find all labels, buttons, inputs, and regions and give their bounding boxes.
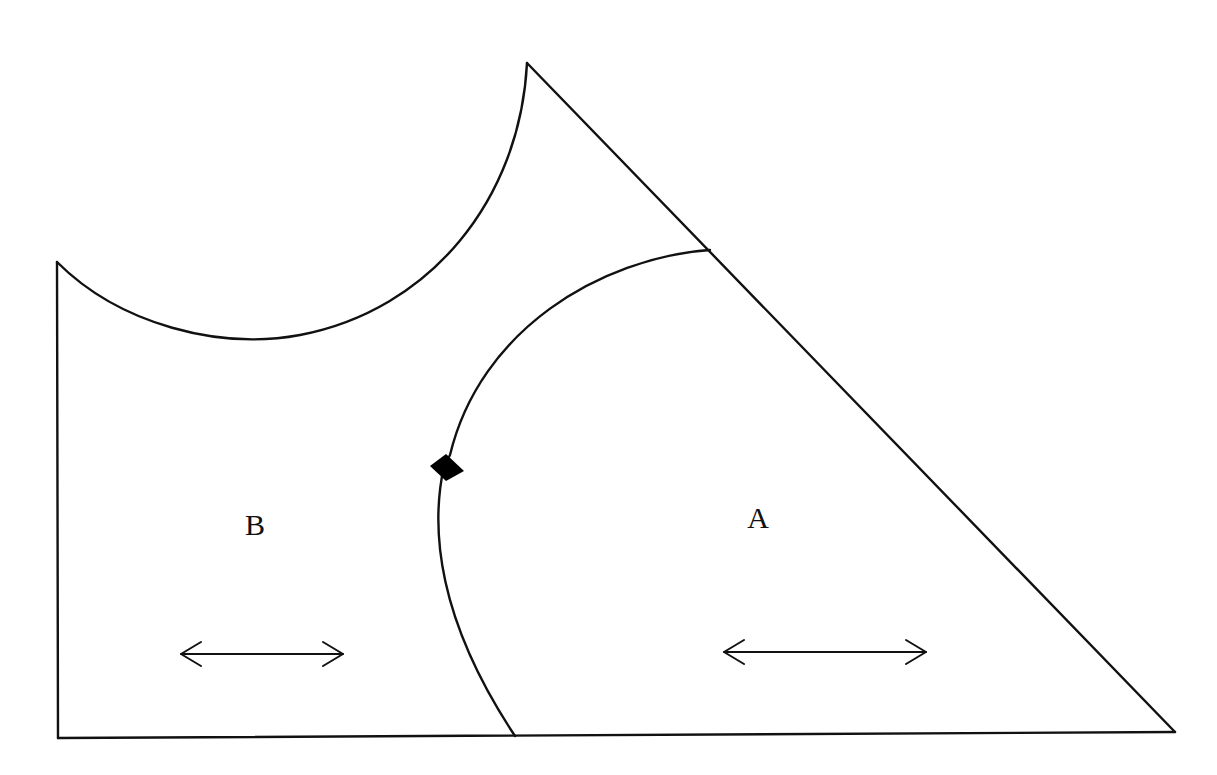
diamond-marker-icon xyxy=(430,454,464,481)
region-a-double-arrow-icon xyxy=(724,640,926,664)
bottom-edge xyxy=(58,732,1175,738)
diagonal-edge xyxy=(527,63,1175,732)
diagram-canvas xyxy=(0,0,1217,775)
region-b-label: B xyxy=(245,510,265,540)
inner-boundary-arc xyxy=(438,250,710,736)
left-edge xyxy=(57,262,58,738)
region-a-label: A xyxy=(747,503,769,533)
top-concave-arc xyxy=(57,63,527,339)
region-b-double-arrow-icon xyxy=(181,642,343,666)
